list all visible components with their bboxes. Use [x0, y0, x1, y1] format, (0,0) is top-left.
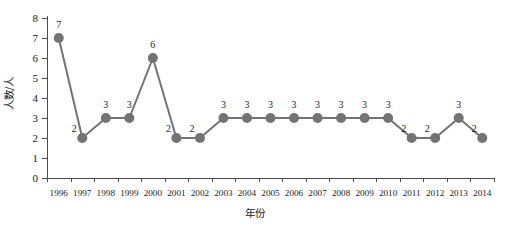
- data-point-label: 2: [158, 124, 178, 134]
- data-point-marker: [148, 53, 158, 63]
- data-point-label: 3: [213, 100, 233, 110]
- data-point-marker: [313, 113, 323, 123]
- data-point-marker: [360, 113, 370, 123]
- data-point-label: 3: [355, 100, 375, 110]
- data-point-marker: [171, 133, 181, 143]
- data-point-label: 3: [96, 100, 116, 110]
- data-point-label: 3: [449, 100, 469, 110]
- data-point-label: 2: [464, 124, 484, 134]
- series-line: [0, 0, 509, 230]
- data-point-label: 2: [394, 124, 414, 134]
- data-point-label: 2: [64, 124, 84, 134]
- data-point-marker: [407, 133, 417, 143]
- data-point-label: 7: [49, 20, 69, 30]
- data-point-label: 3: [378, 100, 398, 110]
- data-point-marker: [218, 113, 228, 123]
- data-point-marker: [54, 33, 64, 43]
- data-point-marker: [454, 113, 464, 123]
- data-point-label: 2: [417, 124, 437, 134]
- data-point-label: 3: [119, 100, 139, 110]
- data-point-marker: [477, 133, 487, 143]
- data-point-label: 6: [143, 40, 163, 50]
- line-chart: 人数/人 年份 012345678 1996199719981999200020…: [0, 0, 509, 230]
- data-point-marker: [383, 113, 393, 123]
- data-point-label: 2: [182, 124, 202, 134]
- data-point-marker: [124, 113, 134, 123]
- data-point-marker: [336, 113, 346, 123]
- data-point-label: 3: [237, 100, 257, 110]
- data-point-marker: [242, 113, 252, 123]
- data-point-label: 3: [261, 100, 281, 110]
- data-point-marker: [195, 133, 205, 143]
- data-point-label: 3: [331, 100, 351, 110]
- data-point-marker: [266, 113, 276, 123]
- data-point-label: 3: [284, 100, 304, 110]
- data-point-marker: [77, 133, 87, 143]
- data-point-marker: [430, 133, 440, 143]
- data-point-marker: [101, 113, 111, 123]
- data-point-marker: [289, 113, 299, 123]
- data-point-label: 3: [308, 100, 328, 110]
